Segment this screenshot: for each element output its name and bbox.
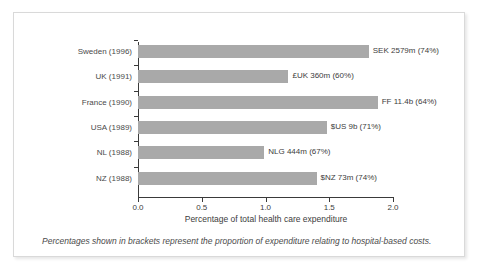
x-axis-tick-label: 0.0: [118, 203, 158, 212]
bar-value-label: $NZ 73m (74%): [321, 171, 377, 184]
bar[interactable]: [138, 172, 317, 185]
bar[interactable]: [138, 96, 378, 109]
y-axis-tick-mark: [134, 167, 138, 168]
y-axis-category-labels: Sweden (1996)UK (1991)France (1990)USA (…: [24, 43, 132, 197]
figure: Sweden (1996)UK (1991)France (1990)USA (…: [0, 0, 483, 274]
bar-row: SEK 2579m (74%): [138, 45, 393, 58]
bar-value-label: £UK 360m (60%): [292, 69, 353, 82]
chart-footnote: Percentages shown in brackets represent …: [42, 235, 452, 248]
y-axis-tick-mark: [134, 65, 138, 66]
x-axis-tick-label: 0.5: [182, 203, 222, 212]
y-axis-tick-label: UK (1991): [27, 70, 132, 83]
plot-area: SEK 2579m (74%)£UK 360m (60%)FF 11.4b (6…: [138, 43, 393, 197]
y-axis-tick-label: NL (1988): [27, 146, 132, 159]
y-axis-tick-mark: [134, 141, 138, 142]
bar-row: FF 11.4b (64%): [138, 96, 393, 109]
bar-row: NLG 444m (67%): [138, 146, 393, 159]
bar-value-label: $US 9b (71%): [331, 120, 381, 133]
chart-frame: Sweden (1996)UK (1991)France (1990)USA (…: [13, 12, 465, 257]
x-axis-tick-mark: [329, 198, 330, 202]
x-axis-tick-mark: [202, 198, 203, 202]
bar-row: $US 9b (71%): [138, 121, 393, 134]
y-axis-tick-mark: [134, 40, 138, 41]
y-axis-tick-label: Sweden (1996): [27, 45, 132, 58]
x-axis-tick-label: 1.5: [309, 203, 349, 212]
bar[interactable]: [138, 70, 288, 83]
bar[interactable]: [138, 146, 264, 159]
y-axis-tick-label: NZ (1988): [27, 172, 132, 185]
bar-row: $NZ 73m (74%): [138, 172, 393, 185]
x-axis-label: Percentage of total health care expendit…: [138, 214, 394, 224]
y-axis-tick-label: France (1990): [27, 96, 132, 109]
y-axis-tick-label: USA (1989): [27, 121, 132, 134]
bar-value-label: NLG 444m (67%): [268, 145, 330, 158]
x-axis-tick-mark: [393, 198, 394, 202]
x-axis-tick-mark: [266, 198, 267, 202]
bar[interactable]: [138, 121, 327, 134]
bar-value-label: SEK 2579m (74%): [373, 44, 439, 57]
bar-row: £UK 360m (60%): [138, 70, 393, 83]
y-axis-tick-mark: [134, 116, 138, 117]
bar[interactable]: [138, 45, 369, 58]
y-axis-tick-mark: [134, 91, 138, 92]
bar-value-label: FF 11.4b (64%): [382, 95, 437, 108]
x-axis-tick-mark: [138, 198, 139, 202]
x-axis-tick-label: 1.0: [246, 203, 286, 212]
x-axis-tick-label: 2.0: [373, 203, 413, 212]
